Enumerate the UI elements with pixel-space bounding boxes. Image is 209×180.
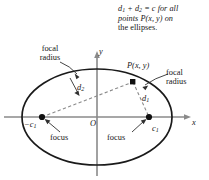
focal-radius-left-label: focal radius bbox=[29, 44, 71, 63]
pos-c-subscript: 1 bbox=[156, 127, 159, 133]
caption-plus-d2: + d bbox=[125, 4, 139, 13]
d1-subscript: 1 bbox=[146, 97, 149, 103]
figure-caption: d1 + d2 = c for allpoints P(x, y) onthe … bbox=[118, 4, 208, 32]
neg-c-subscript: 1 bbox=[33, 123, 36, 129]
caption-line3: the ellipses. bbox=[118, 23, 157, 32]
d2-subscript: 2 bbox=[81, 86, 84, 92]
x-axis-label: x bbox=[192, 118, 196, 127]
focus-left-marker bbox=[39, 114, 45, 120]
leader-focal-radius-right bbox=[142, 74, 168, 90]
focus-right-coordinate-label: c1 bbox=[152, 124, 159, 134]
focus-left-label: focus bbox=[50, 133, 68, 142]
focus-left-coordinate-label: −c1 bbox=[24, 120, 36, 130]
caption-eq-c: = c for all bbox=[142, 4, 178, 13]
d1-label: d1 bbox=[142, 94, 149, 104]
d2-label: d2 bbox=[77, 83, 84, 93]
focal-radius-d2-line bbox=[42, 82, 133, 117]
focal-radius-right-label: focal radius bbox=[166, 68, 209, 87]
point-p-marker bbox=[130, 79, 135, 84]
leader-focus-right bbox=[132, 119, 147, 132]
origin-label: O bbox=[90, 119, 96, 128]
leader-focus-left bbox=[45, 119, 60, 132]
y-axis-label: y bbox=[99, 47, 103, 56]
ellipse-focal-radius-figure: d1 + d2 = c for allpoints P(x, y) onthe … bbox=[0, 0, 209, 180]
point-p-label: P(x, y) bbox=[127, 61, 149, 70]
caption-line2: points P(x, y) on bbox=[118, 14, 173, 23]
focus-right-label: focus bbox=[107, 133, 125, 142]
focus-right-marker bbox=[146, 114, 152, 120]
neg-c-symbol: −c bbox=[24, 120, 33, 129]
